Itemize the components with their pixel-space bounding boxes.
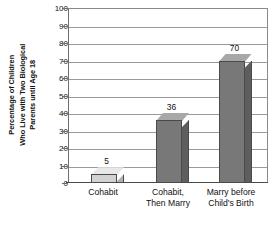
y-axis-tick-label: 60 (4, 74, 68, 83)
x-axis-category-line: Then Marry (132, 198, 204, 209)
bar-value-label: 36 (152, 102, 192, 112)
x-axis-category-line: Cohabit, (132, 187, 204, 198)
y-axis-tick-mark (62, 183, 68, 184)
gridline (69, 27, 267, 28)
x-axis-category-label: Cohabit,Then Marry (132, 187, 204, 208)
y-axis-tick-label: 30 (4, 126, 68, 135)
y-axis-ticks: 1009080706050403020100 (0, 0, 68, 225)
bar (156, 113, 189, 183)
y-axis-tick-label: 90 (4, 21, 68, 30)
bar-value-label: 70 (215, 43, 255, 53)
bar-front-face (156, 120, 182, 183)
y-axis-tick-label: 70 (4, 56, 68, 65)
y-axis-tick-label: 50 (4, 91, 68, 100)
bar-chart: Percentage of Children Who Live with Two… (0, 0, 277, 225)
y-axis-tick-label: 0 (4, 179, 68, 188)
y-axis-tick-label: 80 (4, 39, 68, 48)
x-axis-category-line: Child's Birth (195, 198, 267, 209)
y-axis-tick-label: 10 (4, 161, 68, 170)
y-axis-tick-label: 100 (4, 4, 68, 13)
x-axis-line (66, 182, 268, 183)
x-axis-category-label: Marry beforeChild's Birth (195, 187, 267, 208)
x-axis-category-line: Marry before (195, 187, 267, 198)
bar (219, 54, 252, 184)
y-axis-tick-label: 20 (4, 144, 68, 153)
x-axis-category-label: Cohabit (67, 187, 139, 198)
bar-front-face (219, 61, 245, 184)
bar-side-face (245, 61, 252, 184)
bar (91, 167, 124, 183)
bar-value-label: 5 (87, 156, 127, 166)
bar-side-face (182, 120, 189, 183)
x-axis-category-line: Cohabit (67, 187, 139, 198)
y-axis-tick-label: 40 (4, 109, 68, 118)
